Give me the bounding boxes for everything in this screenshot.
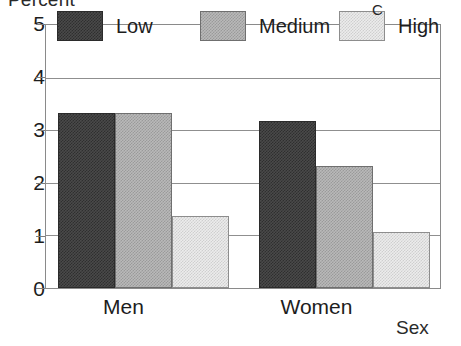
y-tick-mark-3 — [36, 130, 45, 131]
bar-chart: Percent 5 4 3 2 1 0 Low Medium — [0, 0, 461, 346]
bar-women-high — [373, 232, 430, 288]
y-tick-mark-4 — [36, 77, 45, 78]
gridline-4 — [46, 78, 440, 79]
bar-women-low — [259, 121, 316, 288]
y-tick-mark-5 — [36, 24, 45, 25]
bar-men-low — [58, 113, 115, 288]
x-axis-title: Sex — [396, 318, 429, 338]
y-tick-mark-1 — [36, 236, 45, 237]
bar-women-medium — [316, 166, 373, 288]
plot-area — [45, 24, 441, 289]
bar-men-high — [172, 216, 229, 288]
y-axis-title: Percent — [8, 0, 75, 11]
x-tick-label-women: Women — [245, 296, 388, 318]
y-tick-mark-2 — [36, 183, 45, 184]
bar-men-medium — [115, 113, 172, 288]
y-tick-mark-0 — [36, 288, 45, 289]
stray-mark-c: C — [372, 2, 383, 17]
x-tick-label-men: Men — [52, 296, 195, 318]
y-axis: 5 4 3 2 1 0 — [0, 24, 45, 289]
